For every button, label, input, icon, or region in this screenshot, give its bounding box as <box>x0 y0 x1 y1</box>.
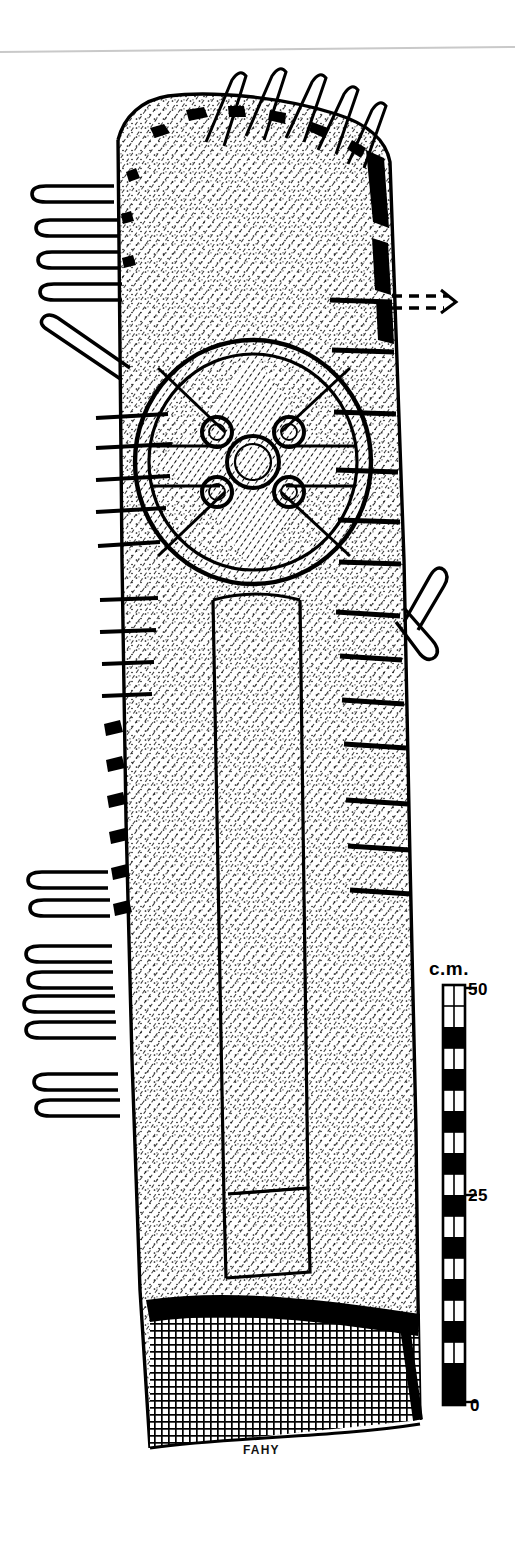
scale-tick-label-50: 50 <box>468 980 488 1000</box>
scale-unit-label: c.m. <box>429 958 469 980</box>
artist-signature: FAHY <box>243 1443 280 1457</box>
scale-tick-label-0: 0 <box>470 1396 480 1416</box>
illustration-plate <box>0 0 515 1556</box>
ringed-cross <box>135 340 371 584</box>
dashed-leader-arrow <box>392 290 456 313</box>
buried-base <box>140 1290 430 1460</box>
upper-left-loop-marks <box>32 186 122 300</box>
left-diagonal-loop-mark <box>41 315 130 380</box>
lower-left-loop-marks <box>24 872 120 1116</box>
slab-body <box>100 80 440 1470</box>
scale-tick-label-25: 25 <box>468 1186 488 1206</box>
scan-edge-line <box>0 47 515 52</box>
